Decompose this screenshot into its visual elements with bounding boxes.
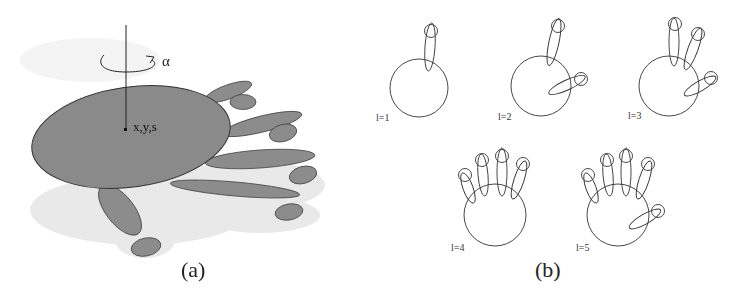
- hand-state-5: [581, 148, 665, 246]
- caption-b: (b): [535, 257, 561, 283]
- hand-state-2: [511, 17, 588, 116]
- state-label-2: l=2: [498, 111, 511, 122]
- state-label-1: l=1: [376, 112, 389, 123]
- rotation-label: α: [162, 53, 170, 69]
- panel-a-hand-model: α x,y,s (a): [0, 0, 370, 304]
- center-point-marker: [124, 128, 127, 131]
- state-label-4: l=4: [451, 242, 464, 253]
- hand-state-4: [458, 148, 530, 246]
- panel-b-hand-states: l=1 l=2 l=3 l=4 l=5 (b): [370, 0, 740, 304]
- caption-a: (a): [181, 257, 205, 283]
- state-label-3: l=3: [628, 110, 641, 121]
- hand-state-1: [390, 23, 448, 117]
- state-label-5: l=5: [576, 242, 589, 253]
- hand-state-3: [639, 18, 718, 117]
- position-scale-label: x,y,s: [133, 119, 157, 134]
